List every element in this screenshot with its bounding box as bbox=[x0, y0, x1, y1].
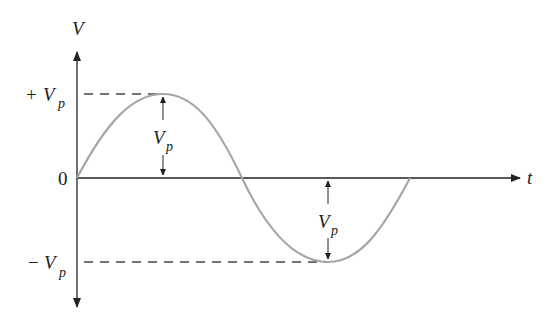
sine-wave-diagram: V t + V p 0 − V p V p V p bbox=[0, 0, 559, 321]
svg-text:p: p bbox=[330, 223, 338, 238]
svg-text:p: p bbox=[58, 265, 66, 280]
negative-peak-label: − V p bbox=[28, 252, 66, 280]
positive-peak-label: + V p bbox=[26, 84, 65, 111]
t-axis-label: t bbox=[527, 167, 533, 188]
svg-text:V: V bbox=[44, 252, 58, 273]
svg-text:p: p bbox=[57, 96, 65, 111]
vp-annotation-negative: V p bbox=[318, 211, 338, 238]
y-axis-label: V bbox=[72, 18, 86, 39]
vp-annotation-positive: V p bbox=[153, 127, 173, 154]
svg-text:V: V bbox=[43, 84, 57, 105]
svg-text:V: V bbox=[153, 127, 167, 148]
svg-text:−: − bbox=[28, 252, 39, 273]
svg-text:V: V bbox=[318, 211, 332, 232]
svg-text:p: p bbox=[165, 139, 173, 154]
zero-label: 0 bbox=[58, 168, 68, 189]
svg-text:+: + bbox=[26, 84, 37, 105]
